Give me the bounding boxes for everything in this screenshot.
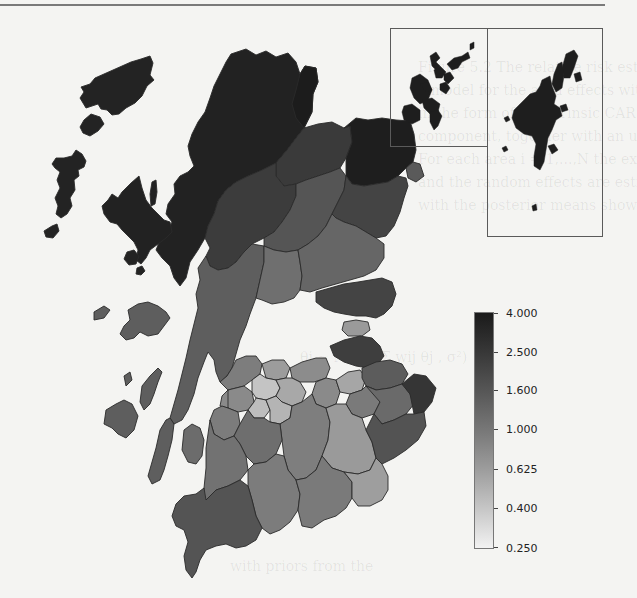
region-islay: [104, 400, 138, 438]
legend-colorbar: [474, 312, 494, 549]
region-eigg: [136, 266, 145, 275]
region-mull: [120, 302, 170, 340]
legend-tick: [494, 429, 498, 430]
legend-label: 2.500: [506, 347, 538, 359]
region-galloway-west: [172, 480, 262, 578]
region-barra: [44, 224, 59, 238]
legend-tick: [494, 508, 498, 509]
region-lewis-harris: [80, 56, 154, 115]
legend-tick: [494, 313, 498, 314]
region-jura: [140, 368, 162, 410]
region-coll-tiree: [94, 306, 110, 320]
region-kintyre: [148, 418, 174, 484]
region-colonsay: [124, 372, 132, 386]
shetland-inset-frame: [487, 28, 603, 237]
legend-tick: [494, 469, 498, 470]
legend-label: 1.000: [506, 424, 538, 436]
region-dundee: [342, 320, 370, 336]
legend-label: 0.400: [506, 503, 538, 515]
legend-tick: [494, 547, 498, 548]
region-raasay: [150, 180, 157, 206]
region-arran: [182, 424, 204, 464]
region-rum: [124, 250, 139, 265]
legend-label: 0.625: [506, 464, 538, 476]
region-inverclyde: [220, 390, 228, 408]
legend-tick: [494, 352, 498, 353]
orkney-inset-frame: [390, 28, 488, 147]
region-uists: [52, 150, 86, 218]
region-east-dunbartonshire: [262, 360, 290, 380]
region-harris-south: [80, 114, 104, 136]
legend-label-min: 0.250: [506, 543, 538, 555]
legend-label: 1.600: [506, 385, 538, 397]
legend-label-max: 4.000: [506, 308, 538, 320]
legend-tick: [494, 390, 498, 391]
